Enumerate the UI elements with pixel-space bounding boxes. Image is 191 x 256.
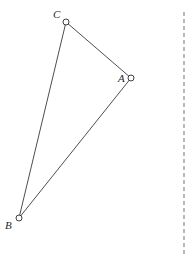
triangle-diagram: A B C [0, 0, 191, 256]
vertex-c-label: C [53, 8, 61, 20]
vertex-b-label: B [5, 219, 12, 231]
vertex-c-point [63, 19, 69, 25]
vertex-a-point [128, 75, 134, 81]
vertex-b-point [16, 215, 22, 221]
edge-c-a [66, 22, 131, 78]
vertex-a-label: A [117, 72, 125, 84]
